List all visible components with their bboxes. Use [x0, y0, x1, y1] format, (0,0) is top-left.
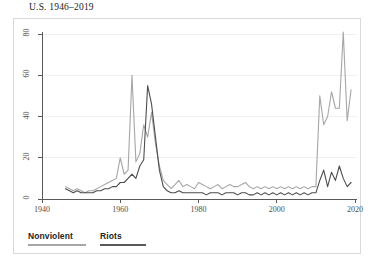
legend-swatch-riots	[100, 244, 146, 246]
x-tick-label: 1940	[29, 205, 55, 214]
y-tick-label: 60	[22, 64, 31, 84]
chart-figure: U.S. 1946–2019 020406080 194019601980200…	[0, 0, 374, 262]
legend-swatch-nonviolent	[28, 244, 86, 246]
x-tick-label: 1980	[186, 205, 212, 214]
y-tick-label: 40	[22, 105, 31, 125]
series-line-riots	[65, 86, 351, 195]
gridlines-group	[42, 34, 357, 158]
y-tick-label: 80	[22, 23, 31, 43]
line-chart-plot	[0, 0, 374, 262]
legend-label-nonviolent: Nonviolent	[28, 231, 73, 241]
series-group	[65, 32, 351, 195]
chart-legend: Nonviolent Riots	[0, 231, 374, 253]
x-tick-label: 2020	[342, 205, 368, 214]
axes-group	[38, 32, 357, 203]
x-tick-label: 2000	[264, 205, 290, 214]
legend-label-riots: Riots	[100, 231, 122, 241]
series-line-nonviolent	[65, 32, 351, 193]
legend-item-riots[interactable]: Riots	[100, 231, 146, 246]
x-tick-label: 1960	[107, 205, 133, 214]
y-tick-label: 20	[22, 146, 31, 166]
legend-item-nonviolent[interactable]: Nonviolent	[28, 231, 86, 246]
